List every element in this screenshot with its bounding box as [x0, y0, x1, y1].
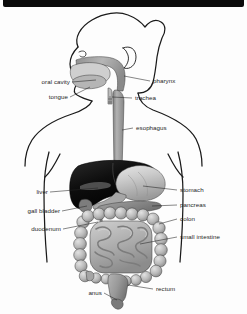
label-esophagus: esophagus — [136, 124, 167, 131]
small-intestine-group — [90, 221, 152, 273]
label-oral-cavity: oral cavity — [42, 78, 71, 85]
anus-shape — [111, 299, 123, 309]
leader-colon — [159, 219, 177, 224]
label-gall-bladder: gall bladder — [27, 207, 60, 214]
upper-airway-group — [70, 47, 136, 91]
label-pancreas: pancreas — [180, 201, 206, 208]
leader-esophagus — [122, 128, 133, 130]
label-colon: colon — [180, 215, 196, 222]
digestive-system-diagram: oral cavity tongue pharynx trachea esoph… — [0, 0, 247, 314]
label-small-intestine: small intestine — [180, 233, 220, 240]
leader-tongue — [70, 87, 90, 97]
digestive-system-figure: oral cavity tongue pharynx trachea esoph… — [0, 0, 247, 314]
label-pharynx: pharynx — [153, 77, 176, 84]
trachea-group — [108, 88, 112, 104]
rectum-shape — [108, 274, 128, 303]
ear-outline — [123, 47, 136, 68]
label-trachea: trachea — [135, 94, 156, 101]
label-tongue: tongue — [49, 93, 69, 100]
label-anus: anus — [88, 289, 102, 296]
leader-rectum — [128, 285, 153, 289]
nasal-detail — [79, 51, 86, 57]
label-duodenum: duodenum — [31, 225, 61, 232]
label-liver: liver — [36, 188, 48, 195]
label-rectum: rectum — [156, 285, 175, 292]
leader-pharynx — [124, 76, 150, 81]
tongue-shape — [73, 75, 106, 89]
label-stomach: stomach — [180, 186, 204, 193]
colon-descending — [150, 222, 167, 277]
cecum-shape — [86, 271, 94, 281]
rectum-anus-group — [108, 274, 128, 309]
